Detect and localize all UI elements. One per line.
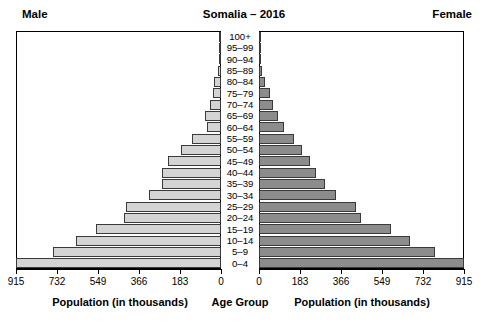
pyramid-row: 5–9 [0,246,488,257]
pyramid-row: 75–79 [0,88,488,99]
female-axis-tick-label: 183 [292,276,309,287]
male-bar[interactable] [96,224,221,234]
female-bar[interactable] [259,111,278,121]
male-bar[interactable] [210,100,221,110]
age-group-label: 90–94 [221,55,259,65]
female-bar[interactable] [259,100,273,110]
female-axis-tick [300,269,301,274]
page-title: Somalia – 2016 [0,8,488,20]
pyramid-row: 45–49 [0,156,488,167]
age-group-label: 30–34 [221,191,259,201]
age-group-label: 75–79 [221,89,259,99]
female-bar[interactable] [259,190,336,200]
female-bar[interactable] [259,77,265,87]
pyramid-row: 90–94 [0,54,488,65]
age-group-label: 60–64 [221,123,259,133]
age-group-label: 70–74 [221,100,259,110]
female-axis-tick [382,269,383,274]
female-axis-tick [341,269,342,274]
age-group-label: 0–4 [221,259,259,269]
pyramid-row: 70–74 [0,99,488,110]
male-bar[interactable] [168,156,221,166]
female-bar[interactable] [259,213,361,223]
female-axis-tick-label: 915 [456,276,473,287]
female-bar[interactable] [259,247,435,257]
female-bar[interactable] [259,122,284,132]
age-group-label: 10–14 [221,236,259,246]
pyramid-row: 30–34 [0,190,488,201]
pyramid-row: 0–4 [0,258,488,269]
male-bar[interactable] [213,88,221,98]
male-bar[interactable] [207,122,221,132]
female-bar[interactable] [259,202,356,212]
age-group-label: 20–24 [221,213,259,223]
male-axis-tick [139,269,140,274]
age-group-label: 5–9 [221,247,259,257]
female-bar[interactable] [259,236,410,246]
female-bar[interactable] [259,224,391,234]
bar-rows-container: 100+95–9990–9485–8980–8475–7970–7465–696… [0,31,488,269]
male-bar[interactable] [214,77,221,87]
age-group-label: 35–39 [221,179,259,189]
male-axis-tick-label: 0 [218,276,224,287]
population-pyramid-chart: Male Somalia – 2016 Female 100+95–9990–9… [0,0,488,328]
female-bar[interactable] [259,168,316,178]
male-axis-tick-label: 366 [131,276,148,287]
female-bar[interactable] [259,179,325,189]
age-group-label: 15–19 [221,225,259,235]
female-axis-title: Population (in thousands) [294,296,430,308]
female-bar[interactable] [259,134,294,144]
male-bar[interactable] [162,179,221,189]
pyramid-row: 10–14 [0,235,488,246]
age-group-label: 85–89 [221,66,259,76]
male-axis-title: Population (in thousands) [52,296,188,308]
female-axis-tick [259,269,260,274]
female-bar[interactable] [259,66,262,76]
female-axis-tick-label: 549 [374,276,391,287]
male-bar[interactable] [162,168,221,178]
male-bar[interactable] [76,236,221,246]
male-axis-tick [16,269,17,274]
pyramid-row: 95–99 [0,42,488,53]
pyramid-row: 40–44 [0,167,488,178]
female-legend-label: Female [432,8,472,20]
female-bar[interactable] [259,32,261,42]
female-bar[interactable] [259,54,261,64]
male-bar[interactable] [205,111,221,121]
male-axis-tick [180,269,181,274]
female-bar[interactable] [259,145,302,155]
pyramid-row: 50–54 [0,144,488,155]
male-bar[interactable] [16,258,221,268]
female-axis-tick-label: 366 [333,276,350,287]
male-axis-tick [98,269,99,274]
female-bar[interactable] [259,43,261,53]
male-bar[interactable] [124,213,221,223]
male-axis-tick [57,269,58,274]
female-bar[interactable] [259,88,270,98]
male-bar[interactable] [192,134,221,144]
age-group-label: 25–29 [221,202,259,212]
male-axis-tick-label: 183 [172,276,189,287]
male-bar[interactable] [126,202,221,212]
female-axis-tick [423,269,424,274]
pyramid-row: 60–64 [0,122,488,133]
female-axis-tick-label: 732 [415,276,432,287]
female-bar[interactable] [259,156,310,166]
male-bar[interactable] [149,190,221,200]
pyramid-row: 100+ [0,31,488,42]
age-group-label: 45–49 [221,157,259,167]
age-group-label: 100+ [221,32,259,42]
male-bar[interactable] [53,247,221,257]
female-axis-tick-label: 0 [256,276,262,287]
pyramid-row: 25–29 [0,201,488,212]
pyramid-row: 20–24 [0,212,488,223]
pyramid-row: 80–84 [0,76,488,87]
pyramid-row: 85–89 [0,65,488,76]
female-bar[interactable] [259,258,464,268]
pyramid-row: 15–19 [0,224,488,235]
pyramid-row: 65–69 [0,110,488,121]
male-bar[interactable] [181,145,221,155]
female-axis-line [259,269,464,270]
male-axis-tick-label: 732 [49,276,66,287]
male-axis-tick-label: 549 [90,276,107,287]
